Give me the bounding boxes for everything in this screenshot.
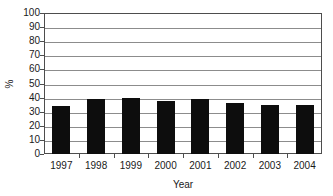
x-tick-mark [148,154,149,158]
x-tick-mark [114,154,115,158]
bar [87,99,105,154]
y-tick-label: 30 [10,107,40,117]
y-tick-label: 100 [10,8,40,18]
y-tick-label: 40 [10,93,40,103]
y-tick-mark [40,98,44,99]
x-tick-mark [218,154,219,158]
x-tick-label: 1998 [79,160,114,172]
y-axis-tick-labels: 0102030405060708090100 [10,13,40,154]
y-tick-label: 10 [10,135,40,145]
y-tick-mark [40,84,44,85]
x-tick-label: 2004 [287,160,322,172]
y-tick-label: 50 [10,79,40,89]
y-tick-mark [40,154,44,155]
bar-chart: % 0102030405060708090100 199719981999200… [0,0,333,196]
bar [191,99,209,154]
bar [52,106,70,154]
y-tick-mark [40,112,44,113]
bar [157,101,175,154]
y-tick-label: 70 [10,50,40,60]
x-tick-label: 2000 [148,160,183,172]
y-tick-label: 80 [10,36,40,46]
x-tick-label: 2003 [253,160,288,172]
x-tick-mark [79,154,80,158]
x-tick-label: 1999 [114,160,149,172]
bars-layer [44,13,322,154]
y-tick-mark [40,69,44,70]
bar [296,105,314,154]
y-tick-mark [40,55,44,56]
y-tick-label: 60 [10,64,40,74]
x-tick-mark [183,154,184,158]
bar [122,98,140,154]
x-axis-tick-labels: 19971998199920002001200220032004 [44,160,322,174]
y-tick-mark [40,41,44,42]
x-tick-mark [287,154,288,158]
bar [261,105,279,154]
y-tick-label: 20 [10,121,40,131]
y-tick-mark [40,13,44,14]
y-tick-mark [40,27,44,28]
x-tick-label: 2001 [183,160,218,172]
x-tick-label: 2002 [218,160,253,172]
y-tick-mark [40,126,44,127]
y-tick-label: 0 [10,149,40,159]
y-tick-label: 90 [10,22,40,32]
x-axis-title: Year [44,179,322,191]
bar [226,103,244,154]
x-tick-mark [253,154,254,158]
y-tick-mark [40,140,44,141]
x-tick-label: 1997 [44,160,79,172]
